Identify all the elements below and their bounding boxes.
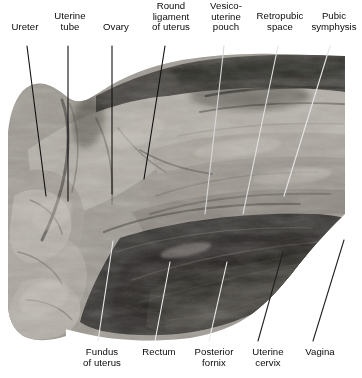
- label-pubic-symphysis: Pubic symphysis: [305, 11, 362, 32]
- grain-speckle: [0, 0, 362, 378]
- label-round-ligament: Round ligament of uterus: [140, 1, 202, 33]
- label-rectum: Rectum: [135, 347, 183, 358]
- label-fundus-of-uterus: Fundus of uterus: [73, 347, 131, 368]
- label-ureter: Ureter: [3, 22, 47, 33]
- label-uterine-cervix: Uterine cervix: [243, 347, 293, 368]
- specimen-image: [0, 0, 362, 378]
- label-vagina: Vagina: [297, 347, 343, 358]
- label-vesico-uterine: Vesico- uterine pouch: [200, 1, 252, 33]
- dissection-photograph: [0, 0, 362, 378]
- label-retropubic-space: Retropubic space: [249, 11, 311, 32]
- specimen-body: [0, 0, 362, 378]
- label-posterior-fornix: Posterior fornix: [186, 347, 242, 368]
- anatomy-figure: UreterUterine tubeOvaryRound ligament of…: [0, 0, 362, 378]
- label-uterine-tube: Uterine tube: [45, 11, 95, 32]
- label-ovary: Ovary: [95, 22, 137, 33]
